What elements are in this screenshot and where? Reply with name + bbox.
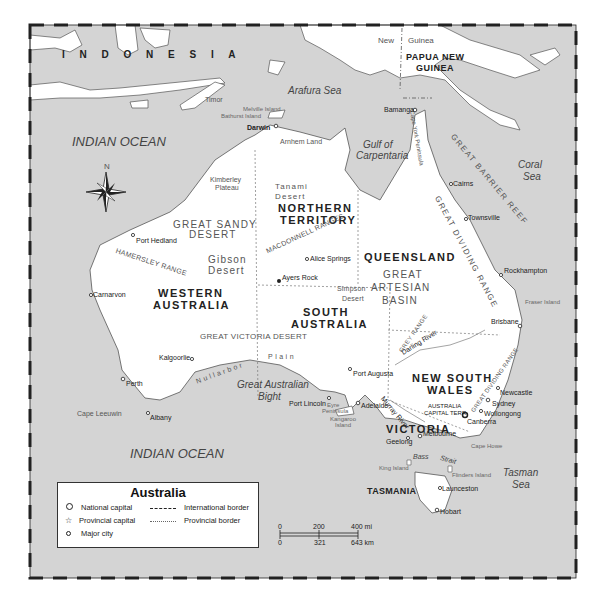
scale-km-643: 643 km [351, 539, 374, 546]
label-great-sandy-2: DESERT [189, 230, 237, 240]
label-arafura-sea: Arafura Sea [288, 86, 341, 96]
label-cape-leeuwin: Cape Leeuwin [77, 410, 122, 417]
scale-mi-0: 0 [278, 523, 282, 530]
label-sa-2: AUSTRALIA [291, 319, 368, 330]
legend-title: Australia [58, 485, 258, 500]
label-gulf-1: Gulf of [363, 140, 392, 150]
label-gibson-1: Gibson [208, 255, 247, 265]
label-tas: TASMANIA [367, 487, 416, 496]
label-geelong: Geelong [386, 438, 412, 445]
label-wollongong: Wollongong [484, 410, 521, 417]
label-artesian-1: GREAT [383, 270, 423, 280]
label-tanami-1: Tanami [275, 183, 308, 191]
scale-km-321: 321 [314, 539, 326, 546]
major-city-icon [66, 531, 71, 536]
label-bight-2: Bight [258, 392, 281, 402]
label-act-1: AUSTRALIA [428, 403, 461, 409]
label-act-2: CAPITAL TERR. [424, 410, 468, 416]
provincial-border-icon [150, 521, 176, 522]
label-rockhampton: Rockhampton [504, 267, 547, 274]
star-icon: ☆ [65, 516, 72, 525]
label-adelaide: Adelaide [361, 402, 388, 409]
label-indian-ocean-north: INDIAN OCEAN [72, 135, 166, 148]
label-alice-springs: Alice Springs [310, 255, 351, 262]
label-qld: QUEENSLAND [364, 252, 456, 263]
label-artesian-3: BASIN [382, 296, 418, 306]
label-port-augusta: Port Augusta [353, 370, 393, 377]
label-indonesia: I N D O N E S I A [62, 50, 241, 60]
legend-item-major-city: Major city [66, 529, 113, 538]
label-melville: Melville Island [243, 106, 281, 112]
map-legend: Australia National capital ☆Provincial c… [57, 482, 259, 548]
label-carnarvon: Carnarvon [93, 291, 126, 298]
label-simpson-1: Simpson [337, 285, 366, 292]
scale-mi-200: 200 [313, 523, 325, 530]
ayers-rock-marker [277, 279, 281, 283]
label-brisbane: Brisbane [491, 318, 519, 325]
label-perth: Perth [126, 380, 143, 387]
label-port-lincoln: Port Lincoln [289, 400, 326, 407]
legend-item-national-capital: National capital [66, 503, 132, 512]
label-plain: Plain [268, 353, 296, 360]
label-tanami-2: Desert [275, 193, 306, 201]
label-nsw-1: NEW SOUTH [412, 373, 493, 384]
label-png-1: PAPUA NEW [406, 53, 465, 62]
label-bass: Bass [413, 453, 429, 460]
label-indian-ocean-south: INDIAN OCEAN [130, 447, 224, 460]
label-ayers-rock: Ayers Rock [282, 274, 318, 281]
label-fraser: Fraser Island [525, 299, 560, 305]
label-new: New [378, 37, 394, 45]
label-tasman-2: Sea [512, 480, 530, 490]
label-kimberley-2: Plateau [215, 184, 239, 191]
label-timor: Timor [205, 96, 223, 103]
label-kalgoorlie: Kalgoorlie [159, 354, 190, 361]
label-sydney: Sydney [492, 400, 515, 407]
legend-item-provincial-border: Provincial border [150, 516, 240, 525]
international-border-icon [150, 508, 176, 509]
label-launceston: Launceston [442, 485, 478, 492]
scale-km-0: 0 [278, 539, 282, 546]
label-tasman-1: Tasman [503, 468, 538, 478]
compass-north-label: N [104, 163, 110, 171]
label-kangaroo-2: Island [335, 422, 351, 428]
label-great-victoria: GREAT VICTORIA DESERT [200, 333, 307, 341]
label-arnhem: Arnhem Land [280, 138, 322, 145]
label-coral-2: Sea [523, 172, 541, 182]
label-canberra: Canberra [467, 418, 496, 425]
scale-mi-400: 400 mi [351, 523, 372, 530]
label-png-2: GUINEA [416, 64, 454, 73]
label-cape-howe: Cape Howe [471, 443, 502, 449]
label-king-island: King Island [379, 465, 409, 471]
label-flinders-island: Flinders Island [452, 472, 491, 478]
label-hobart: Hobart [440, 508, 461, 515]
label-eyre-2: Peninsula [322, 408, 348, 414]
label-townsville: Townsville [468, 214, 500, 221]
label-port-hedland: Port Hedland [136, 237, 177, 244]
legend-item-international-border: International border [150, 503, 249, 512]
label-cairns: Cairns [453, 180, 473, 187]
label-bight-1: Great Australian [237, 380, 309, 390]
label-newcastle: Newcastle [500, 389, 532, 396]
label-bamanga: Bamanga [384, 106, 414, 113]
label-albany: Albany [150, 414, 171, 421]
label-gulf-2: Carpentaria [356, 151, 408, 161]
label-wa-2: AUSTRALIA [153, 300, 230, 311]
label-darwin: Darwin [247, 124, 270, 131]
label-melbourne: Melbourne [423, 430, 456, 437]
legend-item-provincial-capital: ☆Provincial capital [65, 516, 135, 525]
label-gibson-2: Desert [208, 266, 245, 276]
national-capital-icon [66, 503, 73, 510]
label-wa-1: WESTERN [158, 288, 224, 299]
label-simpson-2: Desert [342, 295, 364, 302]
label-sa-1: SOUTH [303, 307, 349, 318]
label-kimberley-1: Kimberley [210, 176, 241, 183]
label-guinea: Guinea [408, 37, 434, 45]
label-nsw-2: WALES [427, 385, 474, 396]
label-artesian-2: ARTESIAN [371, 283, 430, 293]
label-coral-1: Coral [518, 160, 542, 170]
label-bathurst: Bathurst Island [221, 113, 261, 119]
